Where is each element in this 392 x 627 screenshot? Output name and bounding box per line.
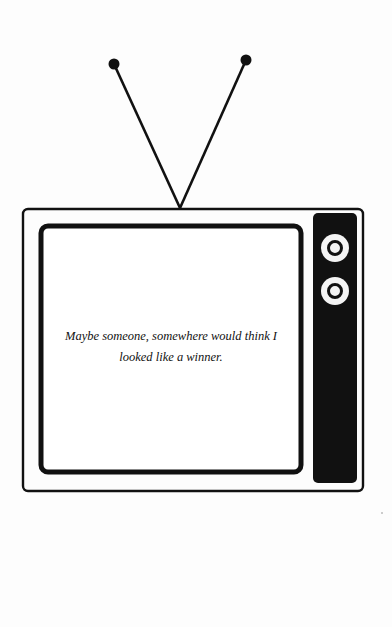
television-illustration <box>0 0 392 627</box>
screen-caption: Maybe someone, somewhere would think I l… <box>48 326 294 368</box>
knob-bottom-icon <box>321 277 349 305</box>
antenna-right-tip-icon <box>241 55 252 66</box>
knob-top-icon <box>321 234 349 262</box>
antenna-left-tip-icon <box>109 59 120 70</box>
speck <box>381 512 383 514</box>
antenna <box>109 55 252 209</box>
